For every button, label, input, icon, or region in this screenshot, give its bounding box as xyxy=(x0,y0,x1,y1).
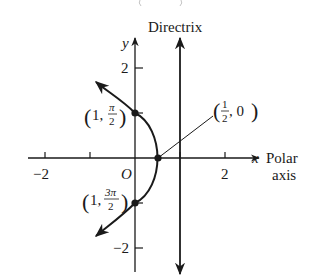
point-3pi-over-2-label: ( 1, 3π 2 ) xyxy=(82,186,128,214)
polar-axis-label-line2: axis xyxy=(272,167,296,183)
point-pi-over-2-label: ( 1, π 2 ) xyxy=(84,101,126,129)
svg-text:1,: 1, xyxy=(92,107,103,123)
origin-label: O xyxy=(121,166,132,182)
vertex-leader-line xyxy=(158,116,213,158)
svg-text:2: 2 xyxy=(108,200,114,212)
cropped-caption-fragment xyxy=(139,0,182,6)
svg-text:1,: 1, xyxy=(90,192,101,208)
svg-text:2: 2 xyxy=(222,112,228,124)
vertex-coordinate-label: ( 1 2 , 0 ) xyxy=(213,98,258,124)
parabola-curve-upper xyxy=(96,82,158,158)
svg-text:): ) xyxy=(251,98,258,123)
svg-text:, 0: , 0 xyxy=(229,103,244,119)
svg-text:1: 1 xyxy=(222,98,228,110)
y-axis-label: y xyxy=(120,35,129,51)
svg-text:(: ( xyxy=(82,189,89,214)
point-3pi-over-2 xyxy=(131,199,138,206)
polar-axis-label-line1: Polar xyxy=(266,150,298,166)
svg-text:π: π xyxy=(109,101,115,113)
point-pi-over-2 xyxy=(131,109,138,116)
directrix-label: Directrix xyxy=(148,19,203,35)
svg-text:(: ( xyxy=(84,104,91,129)
parabola-diagram: Directrix y 2 −2 −2 2 O x Polar axis ( 1… xyxy=(0,0,328,279)
x-axis-label: x xyxy=(251,150,259,166)
y-tick-label-2: 2 xyxy=(121,60,129,76)
x-tick-label-neg2: −2 xyxy=(33,166,49,182)
vertex-point xyxy=(154,154,161,161)
y-tick-label-neg2: −2 xyxy=(113,240,129,256)
svg-text:3π: 3π xyxy=(104,186,117,198)
svg-text:): ) xyxy=(119,104,126,129)
svg-text:2: 2 xyxy=(109,115,115,127)
svg-text:): ) xyxy=(121,189,128,214)
x-tick-label-2: 2 xyxy=(221,166,229,182)
svg-text:(: ( xyxy=(213,98,220,123)
